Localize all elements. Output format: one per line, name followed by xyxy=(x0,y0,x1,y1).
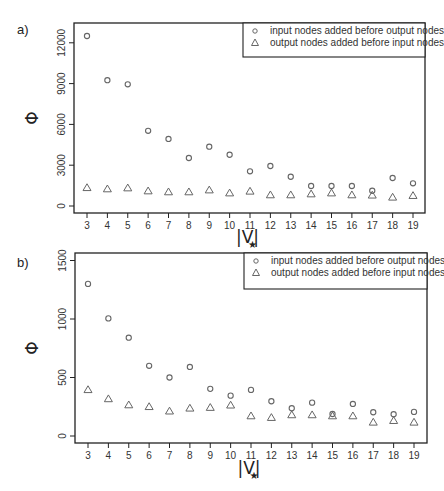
data-point-triangle xyxy=(145,403,153,410)
data-point-triangle xyxy=(369,418,377,425)
data-point-triangle xyxy=(104,395,112,402)
x-tick-label: 6 xyxy=(146,450,152,461)
legend-entry-label: output nodes added before input nodes xyxy=(271,267,444,278)
data-point-circle xyxy=(269,399,274,404)
x-tick-label: 15 xyxy=(327,450,339,461)
x-tick-label: 14 xyxy=(307,450,319,461)
chart-b-scatter-plot: 345678910111213141516171819050010001500Φ… xyxy=(0,0,444,491)
x-axis-title: |V|★ xyxy=(237,458,260,481)
x-tick-label: 19 xyxy=(408,450,420,461)
x-tick-label: 7 xyxy=(167,450,173,461)
data-point-triangle xyxy=(84,386,92,393)
data-point-triangle xyxy=(288,411,296,418)
data-point-triangle xyxy=(390,417,398,424)
data-point-triangle xyxy=(166,407,174,414)
legend-entry-label: input nodes added before output nodes xyxy=(271,255,444,266)
data-point-circle xyxy=(147,363,152,368)
data-point-triangle xyxy=(308,411,316,418)
data-point-circle xyxy=(208,386,213,391)
data-point-circle xyxy=(126,335,131,340)
data-point-triangle xyxy=(206,404,214,411)
x-tick-label: 12 xyxy=(266,450,278,461)
y-tick-label: 1500 xyxy=(57,249,68,272)
data-point-triangle xyxy=(247,412,255,419)
x-tick-label: 18 xyxy=(388,450,400,461)
data-point-circle xyxy=(228,393,233,398)
data-point-circle xyxy=(167,375,172,380)
data-point-triangle xyxy=(186,404,194,411)
x-tick-label: 5 xyxy=(126,450,132,461)
x-tick-label: 17 xyxy=(368,450,380,461)
x-tick-label: 9 xyxy=(207,450,213,461)
data-point-triangle xyxy=(349,412,357,419)
series-triangles xyxy=(84,386,418,425)
x-tick-label: 16 xyxy=(347,450,359,461)
data-point-circle xyxy=(411,409,416,414)
data-point-circle xyxy=(85,281,90,286)
data-point-circle xyxy=(350,401,355,406)
data-point-circle xyxy=(248,387,253,392)
series-circles xyxy=(85,281,416,417)
data-point-circle xyxy=(310,400,315,405)
y-axis: 050010001500 xyxy=(57,249,75,439)
x-tick-label: 13 xyxy=(286,450,298,461)
y-tick-label: 500 xyxy=(57,369,68,386)
subscript-star: ★ xyxy=(250,470,259,481)
y-axis-title: Φ xyxy=(22,341,42,354)
y-tick-label: 0 xyxy=(57,433,68,439)
data-point-triangle xyxy=(125,401,133,408)
data-point-triangle xyxy=(267,414,275,421)
legend: input nodes added before output nodesout… xyxy=(244,253,444,289)
data-point-triangle xyxy=(227,401,235,408)
x-tick-label: 8 xyxy=(187,450,193,461)
data-point-circle xyxy=(371,410,376,415)
x-tick-label: 3 xyxy=(85,450,91,461)
data-point-circle xyxy=(106,316,111,321)
data-point-triangle xyxy=(410,418,418,425)
x-tick-label: 10 xyxy=(225,450,237,461)
y-tick-label: 1000 xyxy=(57,307,68,330)
data-point-circle xyxy=(187,364,192,369)
x-tick-label: 4 xyxy=(106,450,112,461)
